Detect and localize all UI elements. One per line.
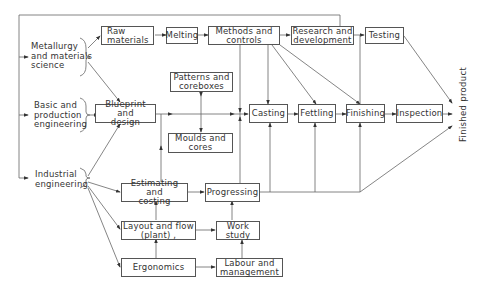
foundry-process-diagram: Metallurgy and materials science Basic a… xyxy=(0,0,481,292)
box-labour-management: Labour and management xyxy=(216,258,283,277)
source-metallurgy: Metallurgy and materials science xyxy=(31,42,92,71)
box-work-study: Work study xyxy=(216,221,260,240)
box-estimating-costing: Estimating and costing xyxy=(121,183,188,202)
box-melting: Melting xyxy=(166,27,198,44)
source-industrial-engineering: Industrial engineering xyxy=(35,170,88,189)
box-casting: Casting xyxy=(249,104,288,123)
box-moulds-cores: Moulds and cores xyxy=(168,133,233,153)
finished-product-label: Finished product xyxy=(458,67,468,142)
box-fettling: Fettling xyxy=(298,104,336,123)
box-methods-controls: Methods and controls xyxy=(208,26,280,45)
box-research-development: Research and development xyxy=(291,26,354,45)
box-finishing: Finishing xyxy=(346,104,385,123)
box-progressing: Progressing xyxy=(205,183,260,202)
box-patterns-coreboxes: Patterns and coreboxes xyxy=(170,72,233,92)
source-basic-production-engineering: Basic and production engineering xyxy=(34,101,87,130)
box-raw-materials: Raw materials xyxy=(101,26,154,45)
box-inspection: Inspection xyxy=(396,104,443,123)
box-ergonomics: Ergonomics xyxy=(121,258,196,277)
box-testing: Testing xyxy=(365,27,404,44)
box-layout-flow-plant: Layout and flow (plant) , xyxy=(121,221,196,240)
box-blueprint-design: Blueprint and design xyxy=(95,104,156,123)
